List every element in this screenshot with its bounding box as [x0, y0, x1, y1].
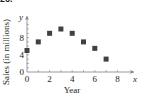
y-axis-variable: y [18, 12, 23, 22]
data-point [25, 48, 30, 53]
svg-text:4: 4 [70, 74, 75, 84]
data-point [58, 27, 63, 32]
data-point [70, 31, 75, 36]
data-point [36, 39, 41, 44]
data-point [92, 46, 97, 51]
svg-text:6: 6 [93, 74, 98, 84]
svg-text:8: 8 [115, 74, 120, 84]
x-axis-label: Year [64, 85, 81, 95]
axes [25, 16, 134, 74]
x-axis-variable: x [132, 74, 137, 84]
svg-text:2: 2 [47, 74, 52, 84]
svg-text:0: 0 [20, 67, 25, 77]
svg-text:Sales (in millions): Sales (in millions) [1, 19, 11, 85]
scatter-chart: Sales (in millions) Year y x 02468048 [0, 0, 142, 99]
data-point [47, 31, 52, 36]
data-point [81, 39, 86, 44]
svg-text:4: 4 [20, 50, 25, 60]
svg-text:8: 8 [20, 33, 25, 43]
svg-text:0: 0 [25, 74, 30, 84]
y-axis-label: Sales (in millions) [1, 19, 11, 85]
data-point [104, 57, 109, 62]
data-points [25, 27, 109, 62]
